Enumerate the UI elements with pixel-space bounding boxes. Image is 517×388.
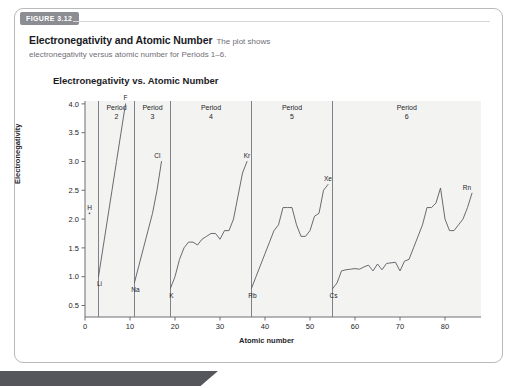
element-label: Rb	[248, 292, 257, 299]
chart-area: Electronegativity Atomic number 0.51.01.…	[29, 89, 489, 351]
x-tick-label: 10	[126, 322, 134, 331]
y-tick-label: 3.5	[69, 128, 79, 137]
element-label: Na	[131, 286, 140, 293]
period-band-number: 4	[209, 113, 213, 120]
caption-rest: electronegativity versus atomic number f…	[29, 49, 488, 62]
y-tick-label: 1.0	[69, 272, 79, 281]
caption-lead: The plot shows	[216, 37, 270, 46]
element-label: Kr	[244, 152, 251, 159]
period-band-label: Period	[142, 104, 162, 111]
y-tick-label: 0.5	[69, 301, 79, 310]
figure-number-tab: FIGURE 3.12	[20, 12, 79, 25]
y-axis-title: Electronegativity	[13, 124, 22, 184]
x-tick-label: 20	[171, 322, 179, 331]
period-band-number: 3	[151, 113, 155, 120]
figure-caption: Electronegativity and Atomic NumberThe p…	[29, 33, 488, 61]
element-label: H	[87, 204, 92, 211]
figure-tab-rule	[73, 21, 490, 22]
x-tick-label: 0	[83, 322, 87, 331]
period-band-label: Period	[201, 104, 221, 111]
element-label: K	[169, 292, 174, 299]
y-tick-label: 3.0	[69, 157, 79, 166]
period-band-label: Period	[397, 104, 417, 111]
x-tick-label: 50	[306, 322, 314, 331]
figure-card: FIGURE 3.12 Electronegativity and Atomic…	[14, 8, 503, 363]
caption-title: Electronegativity and Atomic Number	[29, 34, 212, 46]
y-tick-label: 2.5	[69, 186, 79, 195]
x-tick-label: 30	[216, 322, 224, 331]
element-label: Li	[97, 280, 102, 287]
y-tick-label: 2.0	[69, 215, 79, 224]
x-tick-label: 70	[396, 322, 404, 331]
y-tick-label: 1.5	[69, 244, 79, 253]
x-tick-label: 60	[351, 322, 359, 331]
x-tick-label: 40	[261, 322, 269, 331]
element-label: F	[124, 94, 128, 101]
element-label: Rn	[463, 184, 472, 191]
page-footer-bar	[0, 371, 218, 386]
element-label: Cl	[154, 152, 161, 159]
period-band-number: 6	[405, 113, 409, 120]
period-band-number: 2	[115, 113, 119, 120]
x-tick-label: 80	[441, 322, 449, 331]
period-band-label: Period	[282, 104, 302, 111]
element-label: Cs	[330, 292, 339, 299]
y-tick-label: 4.0	[69, 100, 79, 109]
data-point	[89, 212, 91, 214]
period-band-label: Period	[106, 104, 126, 111]
element-label: Xe	[324, 175, 332, 182]
period-band-number: 5	[290, 113, 294, 120]
chart-title: Electronegativity vs. Atomic Number	[53, 75, 218, 86]
electronegativity-plot: 0.51.01.52.02.53.03.54.00102030405060708…	[29, 89, 489, 351]
